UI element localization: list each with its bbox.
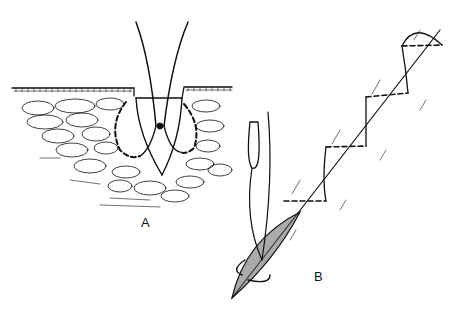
suture-illustration [0, 0, 458, 309]
panel-a-label: A [141, 215, 150, 230]
panel-b-drawing [232, 30, 442, 298]
panel-b-label: B [314, 269, 323, 284]
panel-a-drawing [12, 22, 232, 207]
